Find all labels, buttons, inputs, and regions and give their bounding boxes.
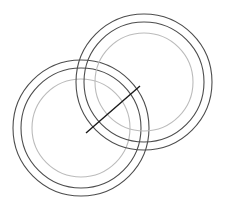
figure-root: [0, 0, 226, 216]
figure-background: [0, 0, 226, 216]
geometry-diagram-canvas: [0, 0, 226, 216]
